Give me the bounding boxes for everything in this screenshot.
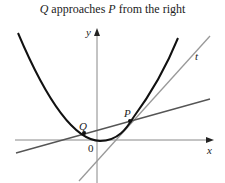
y-axis-arrow-icon [94,28,100,36]
point-p [128,119,132,123]
y-axis-label: y [85,26,91,38]
x-axis-label: x [206,144,212,156]
point-q-label: Q [79,120,87,132]
diagram-canvas: y x 0 Q P t [0,0,225,183]
secant-line [16,99,210,153]
x-axis-arrow-icon [206,137,214,143]
parabola-curve [18,33,178,141]
tangent-line [79,36,210,181]
point-p-label: P [123,107,131,119]
tangent-label: t [195,50,199,62]
origin-label: 0 [88,142,94,154]
